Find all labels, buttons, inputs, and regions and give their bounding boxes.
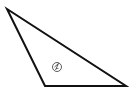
triangle bbox=[7, 9, 126, 86]
triangle-diagram bbox=[0, 0, 129, 107]
